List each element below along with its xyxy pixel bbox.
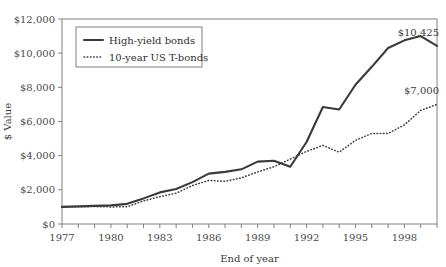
legend-label[interactable]: 10-year US T-bonds [109,52,208,63]
data-label: $7,000 [404,85,439,96]
y-axis-title: $ Value [2,103,13,140]
annotation-layer: $10,425$7,000 [398,27,439,97]
y-tick-label: $2,000 [20,184,55,195]
x-tick-label: 1980 [98,232,123,243]
y-tick-label: $8,000 [20,82,55,93]
chart-container: $12,000$10,000$8,000$6,000$4,000$2,000$0… [0,0,446,267]
x-tick-label: 1983 [147,232,172,243]
line-chart: $12,000$10,000$8,000$6,000$4,000$2,000$0… [0,0,446,267]
y-axis-tick-labels: $12,000$10,000$8,000$6,000$4,000$2,000$0 [14,14,55,230]
y-tick-label: $0 [42,219,55,230]
x-axis-ticks [62,224,437,228]
legend-label[interactable]: High-yield bonds [109,35,195,46]
x-tick-label: 1977 [49,232,74,243]
x-axis-title: End of year [220,253,279,264]
series-line-dotted [62,104,437,207]
data-label: $10,425 [398,27,439,38]
y-tick-label: $12,000 [14,14,55,25]
x-tick-label: 1998 [392,232,417,243]
y-tick-label: $4,000 [20,150,55,161]
y-tick-label: $10,000 [14,48,55,59]
y-tick-label: $6,000 [20,116,55,127]
x-tick-label: 1992 [294,232,319,243]
x-axis-tick-labels: 19771980198319861989199219951998 [49,232,417,243]
x-tick-label: 1989 [245,232,270,243]
x-tick-label: 1995 [343,232,368,243]
y-axis-ticks [58,19,62,224]
x-tick-label: 1986 [196,232,221,243]
chart-legend[interactable]: High-yield bonds10-year US T-bonds [76,27,208,67]
